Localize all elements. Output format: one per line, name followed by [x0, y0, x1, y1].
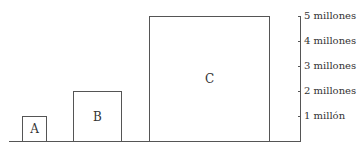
tick-5m: [298, 16, 301, 17]
box-b: B: [73, 91, 122, 142]
tick-3m: [298, 66, 301, 67]
tick-2m: [298, 91, 301, 92]
tick-label-4m: 4 millones: [304, 36, 356, 46]
tick-4m: [298, 41, 301, 42]
tick-label-3m: 3 millones: [304, 61, 356, 71]
tick-1m: [298, 116, 301, 117]
tick-label-2m: 2 millones: [304, 86, 356, 96]
box-c-label: C: [205, 72, 214, 86]
box-b-label: B: [93, 110, 102, 124]
box-a: A: [22, 116, 47, 142]
tick-label-1m: 1 millón: [304, 111, 345, 121]
value-axis: [300, 16, 301, 142]
tick-label-5m: 5 millones: [304, 11, 356, 21]
box-c: C: [149, 16, 270, 142]
box-a-label: A: [30, 122, 39, 136]
